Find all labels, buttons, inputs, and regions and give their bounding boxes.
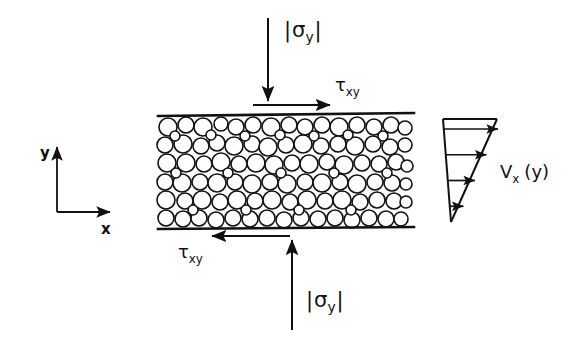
shear-stress-bottom-label: τxy bbox=[178, 243, 203, 265]
granular-particle bbox=[262, 174, 278, 190]
top-plate bbox=[158, 113, 414, 116]
tau-subscript: xy bbox=[189, 252, 203, 266]
axis-x-label: x bbox=[101, 222, 111, 237]
granular-particle bbox=[276, 212, 292, 228]
granular-particle bbox=[378, 211, 394, 227]
granular-particle bbox=[327, 210, 343, 226]
granular-particle bbox=[346, 205, 356, 215]
granular-particle bbox=[231, 156, 247, 172]
granular-particle bbox=[188, 205, 198, 215]
sigma-symbol: σ bbox=[292, 18, 305, 42]
granular-particle bbox=[214, 117, 228, 131]
granular-particle bbox=[196, 156, 212, 172]
granular-particle bbox=[314, 117, 330, 133]
granular-particle bbox=[263, 191, 281, 209]
granular-particle-assembly bbox=[157, 117, 413, 228]
abs-bar-right: | bbox=[314, 18, 323, 42]
granular-particle bbox=[300, 155, 318, 173]
granular-particle bbox=[354, 155, 370, 171]
granular-particle bbox=[310, 211, 326, 227]
granular-particle bbox=[212, 194, 228, 210]
granular-particle bbox=[208, 174, 226, 192]
granular-particle bbox=[275, 130, 285, 140]
tau-symbol: τ bbox=[335, 74, 346, 95]
granular-shear-diagram: |σy| |σy| τxy τxy y x Vx(y) bbox=[0, 0, 573, 351]
granular-particle bbox=[178, 117, 194, 133]
normal-stress-top-label: |σy| bbox=[283, 20, 323, 45]
velocity-argument: (y) bbox=[524, 161, 549, 182]
granular-particle bbox=[225, 137, 243, 155]
granular-particle bbox=[313, 174, 331, 192]
granular-particle bbox=[398, 138, 412, 152]
granular-particle bbox=[157, 174, 173, 190]
axis-y-label: y bbox=[40, 146, 50, 161]
velocity-subscript: x bbox=[512, 172, 519, 186]
diagram-canvas bbox=[0, 0, 573, 351]
granular-particle bbox=[284, 155, 300, 171]
granular-particle bbox=[401, 160, 413, 172]
velocity-symbol: V bbox=[500, 161, 512, 182]
granular-particle bbox=[158, 210, 174, 226]
granular-particle bbox=[208, 212, 224, 228]
granular-particle bbox=[245, 117, 261, 133]
granular-particle bbox=[343, 130, 353, 140]
abs-bar-right: | bbox=[336, 288, 345, 312]
granular-particle bbox=[369, 192, 385, 208]
granular-particle bbox=[382, 168, 392, 178]
normal-stress-bottom-label: |σy| bbox=[305, 290, 345, 315]
tau-subscript: xy bbox=[346, 85, 360, 99]
granular-particle bbox=[400, 196, 412, 208]
granular-particle bbox=[171, 168, 181, 178]
granular-particle bbox=[243, 175, 261, 193]
granular-particle bbox=[398, 121, 412, 135]
granular-particle bbox=[247, 154, 265, 172]
velocity-profile-triangle bbox=[443, 119, 498, 222]
granular-particle bbox=[367, 174, 383, 190]
granular-particle bbox=[309, 131, 319, 141]
granular-particle bbox=[348, 175, 366, 193]
granular-particle bbox=[276, 168, 286, 178]
sigma-subscript: y bbox=[327, 299, 335, 315]
velocity-profile-baseline bbox=[443, 119, 451, 222]
granular-particle bbox=[394, 212, 408, 226]
velocity-profile-arrows bbox=[444, 129, 498, 206]
sigma-symbol: σ bbox=[314, 288, 327, 312]
granular-particle bbox=[361, 210, 377, 226]
granular-particle bbox=[297, 174, 313, 190]
granular-particle bbox=[193, 138, 209, 154]
velocity-profile-label: Vx(y) bbox=[500, 163, 549, 185]
granular-particle bbox=[240, 131, 250, 141]
coordinate-axes bbox=[57, 147, 110, 212]
granular-particle bbox=[241, 205, 251, 215]
tau-symbol: τ bbox=[178, 241, 189, 262]
granular-particle bbox=[400, 178, 412, 190]
shear-stress-top-label: τxy bbox=[335, 76, 360, 98]
granular-particle bbox=[170, 131, 180, 141]
granular-particle bbox=[206, 130, 216, 140]
sigma-subscript: y bbox=[305, 29, 313, 45]
granular-particle bbox=[259, 210, 275, 226]
granular-particle bbox=[157, 191, 175, 209]
bottom-plate bbox=[158, 227, 414, 229]
granular-particle bbox=[378, 131, 388, 141]
granular-particle bbox=[383, 117, 399, 133]
granular-particle bbox=[192, 174, 208, 190]
granular-particle bbox=[329, 168, 339, 178]
granular-particle bbox=[225, 210, 241, 226]
granular-particle bbox=[223, 168, 233, 178]
granular-particle bbox=[317, 193, 333, 209]
abs-bar-left: | bbox=[305, 288, 314, 312]
granular-particle bbox=[294, 205, 304, 215]
granular-particle bbox=[259, 138, 277, 156]
abs-bar-left: | bbox=[283, 18, 292, 42]
